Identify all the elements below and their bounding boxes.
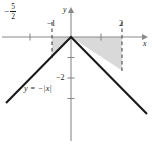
y-axis-label: y [63, 6, 67, 14]
annotation-numerator: 5 [10, 3, 16, 11]
plot-canvas [0, 0, 152, 151]
x-tick-label-minus1: −1 [47, 20, 56, 28]
y-tick-label-minus2: −2 [56, 74, 65, 82]
curve-equation-label: y = −|x| [24, 85, 52, 93]
annotation-minus-sign: − [4, 6, 9, 16]
curve-y-equals-minus-abs-x [6, 37, 147, 114]
annotation-denominator: 2 [10, 13, 16, 21]
graph-figure: − 5 2 x y −1 2 −2 y = −|x| [0, 0, 152, 151]
y-axis-arrow [68, 7, 74, 13]
annotation-minus-five-halves: − 5 2 [4, 3, 16, 20]
annotation-fraction: 5 2 [10, 3, 16, 20]
x-axis-label: x [143, 40, 147, 48]
x-tick-label-2: 2 [119, 20, 123, 28]
